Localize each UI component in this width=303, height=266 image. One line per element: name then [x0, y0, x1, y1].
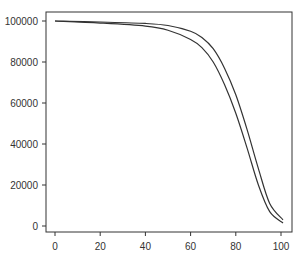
x-tick-label: 100: [273, 241, 290, 252]
series-lines: [55, 21, 283, 223]
y-tick-label: 80000: [10, 57, 38, 68]
y-tick-label: 20000: [10, 180, 38, 191]
x-axis: 020406080100: [52, 232, 290, 252]
x-tick-label: 80: [230, 241, 242, 252]
x-tick-label: 20: [95, 241, 107, 252]
y-tick-label: 60000: [10, 98, 38, 109]
x-tick-label: 60: [185, 241, 197, 252]
x-tick-label: 0: [52, 241, 58, 252]
y-axis: 020000400006000080000100000: [5, 16, 46, 232]
curve-inner-line: [55, 21, 283, 223]
y-tick-label: 100000: [5, 16, 39, 27]
line-chart: 020000400006000080000100000 020406080100: [0, 0, 303, 266]
y-tick-label: 0: [32, 221, 38, 232]
plot-frame: [46, 12, 292, 232]
x-tick-label: 40: [140, 241, 152, 252]
curve-outer-line: [55, 21, 283, 220]
y-tick-label: 40000: [10, 139, 38, 150]
